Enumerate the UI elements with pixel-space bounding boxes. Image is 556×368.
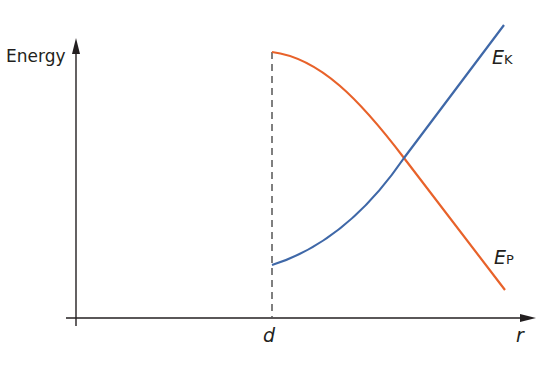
ek-label-sub: K xyxy=(504,52,513,67)
ep-label-sub: P xyxy=(506,252,514,267)
ep-label-main: E xyxy=(494,246,506,268)
x-axis-label: r xyxy=(516,324,524,346)
x-axis-arrow-icon xyxy=(520,314,536,322)
y-axis-arrow-icon xyxy=(72,38,80,54)
ek-label: EK xyxy=(492,46,513,68)
energy-chart xyxy=(0,0,556,368)
y-axis-label: Energy xyxy=(6,46,66,66)
ep-label: EP xyxy=(494,246,514,268)
ek-curve xyxy=(272,25,504,265)
ep-curve xyxy=(272,52,505,290)
x-tick-d: d xyxy=(263,324,275,346)
ek-label-main: E xyxy=(492,46,504,68)
